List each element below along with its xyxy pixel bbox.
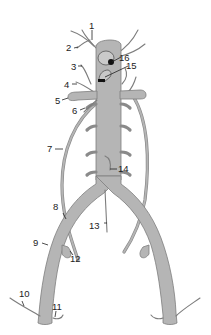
internal-iliac-right	[140, 245, 149, 258]
branch-11-right	[151, 315, 163, 319]
label-4: 4	[64, 79, 69, 90]
branch-right-mid-2	[128, 77, 136, 92]
label-11: 11	[52, 301, 62, 312]
leader-9	[42, 243, 48, 245]
label-7: 7	[47, 143, 52, 154]
label-12: 12	[70, 253, 81, 264]
branch-10-left	[10, 298, 40, 316]
aorta-diagram: 1 2 3 4 5 6 7 8 9 10 11 12 13 14 15 16	[0, 0, 211, 335]
median-sacral-artery	[105, 190, 107, 232]
renal-artery-right	[120, 90, 146, 99]
segmental-branch	[87, 126, 96, 130]
label-2: 2	[66, 42, 71, 53]
label-5: 5	[55, 95, 60, 106]
label-16: 16	[119, 52, 130, 63]
label-8: 8	[53, 201, 58, 212]
iliac-right	[96, 176, 177, 325]
orifice-16-marker	[108, 59, 114, 65]
label-10: 10	[19, 288, 30, 299]
label-3: 3	[71, 61, 76, 72]
branch-3	[81, 65, 91, 84]
orifice-15-marker	[98, 79, 105, 82]
label-1: 1	[89, 20, 94, 31]
segmental-branch	[121, 126, 130, 130]
segmental-branch	[87, 152, 96, 155]
leader-6	[80, 108, 85, 110]
segmental-branch	[121, 104, 130, 108]
iliac-left	[38, 176, 121, 325]
branch-11-left	[53, 315, 63, 319]
segmental-branch	[121, 152, 130, 155]
segmental-branch	[87, 172, 96, 175]
leader-5	[62, 98, 68, 100]
renal-artery-left	[68, 91, 97, 101]
branch-10-right	[176, 298, 200, 316]
label-14: 14	[118, 163, 129, 174]
label-9: 9	[33, 237, 38, 248]
label-13: 13	[89, 220, 100, 231]
branch-2	[77, 40, 90, 48]
label-6: 6	[72, 105, 77, 116]
